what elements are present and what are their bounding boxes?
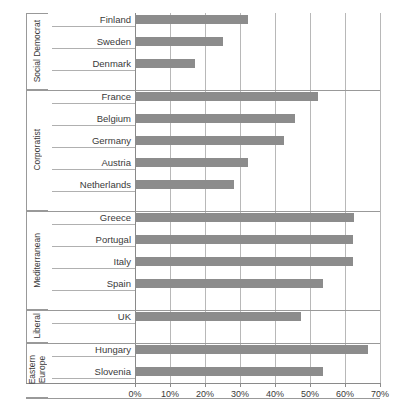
category-label: Denmark xyxy=(92,58,131,70)
bar xyxy=(135,92,318,101)
x-tick xyxy=(345,383,346,387)
group-block: Eastern Europe xyxy=(26,343,48,398)
bar xyxy=(135,345,368,354)
category-separator xyxy=(52,48,135,49)
x-tick xyxy=(380,383,381,387)
group-label: Mediterranean xyxy=(32,233,42,288)
bar xyxy=(135,136,284,145)
x-tick xyxy=(275,383,276,387)
category-row: Denmark xyxy=(48,57,135,79)
group-label: Liberal xyxy=(32,313,42,339)
category-label: UK xyxy=(118,311,131,323)
category-row: Hungary xyxy=(48,343,135,365)
category-label: Italy xyxy=(114,256,131,268)
x-tick xyxy=(170,383,171,387)
category-label: Germany xyxy=(92,135,131,147)
bar xyxy=(135,213,354,222)
category-row: Greece xyxy=(48,211,135,233)
category-separator xyxy=(52,125,135,126)
category-separator xyxy=(52,26,135,27)
bar xyxy=(135,312,301,321)
group-block: Corporatist xyxy=(26,90,48,211)
category-label: Netherlands xyxy=(80,179,131,191)
category-row: Netherlands xyxy=(48,178,135,200)
bars-layer xyxy=(135,13,380,383)
category-label: France xyxy=(101,91,131,103)
x-tick xyxy=(310,383,311,387)
group-label: Corporatist xyxy=(32,129,42,171)
category-separator xyxy=(52,246,135,247)
category-separator xyxy=(52,147,135,148)
bar xyxy=(135,180,234,189)
category-separator xyxy=(52,191,135,192)
group-block: Social Democrat xyxy=(26,13,48,90)
category-row: Finland xyxy=(48,13,135,35)
category-row: Belgium xyxy=(48,112,135,134)
x-tick-label: 10% xyxy=(150,389,190,400)
category-label: Spain xyxy=(107,278,131,290)
bar xyxy=(135,235,353,244)
category-row: Portugal xyxy=(48,233,135,255)
category-separator xyxy=(52,103,135,104)
category-row: UK xyxy=(48,310,135,332)
category-separator xyxy=(52,290,135,291)
x-tick xyxy=(240,383,241,387)
x-tick-label: 70% xyxy=(360,389,400,400)
x-tick-label: 40% xyxy=(255,389,295,400)
bar xyxy=(135,279,323,288)
category-separator xyxy=(52,268,135,269)
x-tick-label: 0% xyxy=(115,389,155,400)
bar xyxy=(135,37,223,46)
category-row: Sweden xyxy=(48,35,135,57)
category-row: France xyxy=(48,90,135,112)
x-tick xyxy=(205,383,206,387)
category-label: Belgium xyxy=(97,113,131,125)
category-label: Portugal xyxy=(96,234,131,246)
category-separator xyxy=(52,224,135,225)
x-tick-label: 20% xyxy=(185,389,225,400)
group-label: Social Democrat xyxy=(32,20,42,82)
category-label: Finland xyxy=(100,14,131,26)
category-separator xyxy=(52,378,135,379)
x-tick-label: 50% xyxy=(290,389,330,400)
bar xyxy=(135,257,353,266)
bar xyxy=(135,158,248,167)
group-block: Liberal xyxy=(26,310,48,343)
x-tick xyxy=(135,383,136,387)
category-row: Slovenia xyxy=(48,365,135,387)
category-label: Sweden xyxy=(97,36,131,48)
horizontal-bar-chart: Social DemocratCorporatistMediterraneanL… xyxy=(0,0,401,410)
category-row: Italy xyxy=(48,255,135,277)
category-label: Hungary xyxy=(95,344,131,356)
category-label: Austria xyxy=(101,157,131,169)
group-block: Mediterranean xyxy=(26,211,48,310)
category-row: Spain xyxy=(48,277,135,299)
x-tick-label: 60% xyxy=(325,389,365,400)
category-label: Greece xyxy=(100,212,131,224)
category-separator xyxy=(52,323,135,324)
bar xyxy=(135,114,295,123)
bar xyxy=(135,367,323,376)
category-separator xyxy=(52,70,135,71)
category-separator xyxy=(52,169,135,170)
bar xyxy=(135,59,195,68)
bar xyxy=(135,15,248,24)
group-label: Eastern Europe xyxy=(27,355,47,384)
category-label: Slovenia xyxy=(95,366,131,378)
category-row: Austria xyxy=(48,156,135,178)
category-separator xyxy=(52,356,135,357)
gridline-70 xyxy=(380,13,381,383)
category-row: Germany xyxy=(48,134,135,156)
x-tick-label: 30% xyxy=(220,389,260,400)
